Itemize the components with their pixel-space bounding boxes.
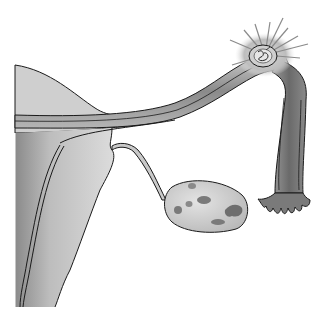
fertilized-egg xyxy=(249,45,277,67)
anatomy-illustration xyxy=(0,0,326,322)
ovarian-ligament xyxy=(112,143,166,200)
uterus xyxy=(15,65,140,307)
ovary xyxy=(165,181,248,233)
fimbriae xyxy=(258,193,310,214)
fallopian-tube-descending xyxy=(272,60,306,193)
